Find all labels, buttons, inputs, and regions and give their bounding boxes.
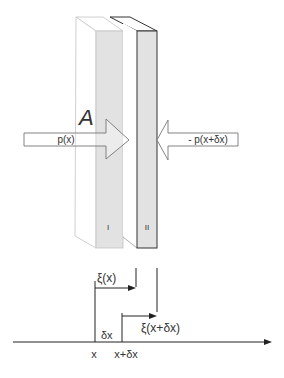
axis-tick-x: x (91, 348, 97, 360)
xi-x-label: ξ(x) (97, 271, 116, 285)
left-force-label: p(x) (57, 134, 74, 145)
xi-xdx-label: ξ(x+δx) (141, 321, 180, 335)
diagram-canvas: A I II p(x) - p(x+δx) ξ(x) ξ(x+δx) δx x … (0, 0, 284, 378)
delta-x-label: δx (101, 329, 113, 341)
displacement-lines (13, 268, 265, 342)
xi-xdx-arrowhead (149, 313, 157, 319)
right-force-label: - p(x+δx) (188, 134, 228, 145)
axis-tick-x-plus-dx: x+δx (114, 348, 138, 360)
area-label: A (77, 105, 94, 130)
xi-x-arrowhead (128, 285, 136, 291)
axis-arrowhead (264, 339, 272, 345)
slab-2-label: II (145, 223, 149, 232)
slab-1-label: I (107, 223, 109, 232)
